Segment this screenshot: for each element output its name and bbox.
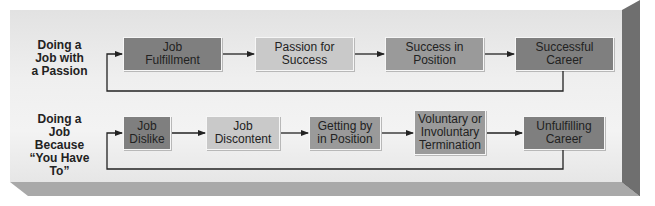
flow-arrows (0, 0, 655, 206)
feedback-loop-arrow-icon (107, 54, 563, 91)
feedback-loop-arrow-icon (107, 133, 563, 169)
